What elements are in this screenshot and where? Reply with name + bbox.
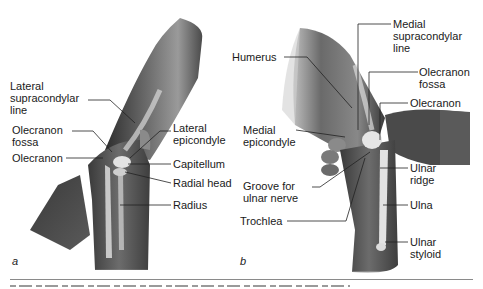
elbow-anatomy-figure: Lateral supracondylar line Olecranon fos… [0,0,483,289]
label-capitellum: Capitellum [173,158,225,170]
label-ulnar-ridge: Ulnar ridge [410,162,436,186]
label-lateral-epicondyle: Lateral epicondyle [173,122,226,146]
panel-letter-b: b [240,255,246,267]
label-ulnar-styloid: Ulnar styloid [410,236,441,260]
label-ulna: Ulna [410,199,433,211]
panel-b-arm [282,28,470,274]
label-medial-epicondyle: Medial epicondyle [243,124,296,148]
label-medial-supracondylar-line: Medial supracondylar line [393,18,462,54]
label-radius: Radius [173,199,207,211]
label-olecranon-a: Olecranon [12,152,63,164]
label-groove-for-ulnar-nerve: Groove for ulnar nerve [243,180,298,204]
label-radial-head: Radial head [173,177,232,189]
caption-truncated [10,284,350,289]
label-olecranon-b: Olecranon [410,97,461,109]
label-humerus: Humerus [232,51,277,63]
label-lateral-supracondylar-line: Lateral supracondylar line [10,80,79,116]
caption-divider [10,279,473,280]
label-olecranon-fossa-a: Olecranon fossa [12,124,63,148]
label-olecranon-fossa-b: Olecranon fossa [419,66,470,90]
label-trochlea: Trochlea [240,215,282,227]
panel-letter-a: a [12,255,18,267]
